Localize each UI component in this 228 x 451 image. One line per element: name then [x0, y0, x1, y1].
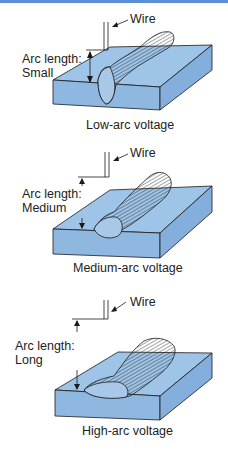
arc-length-label-2: Arc length:	[22, 187, 82, 201]
caption-2: Medium-arc voltage	[73, 261, 183, 275]
wire-label-3: Wire	[130, 295, 156, 309]
arc-length-label-3: Arc length:	[15, 339, 75, 353]
arc-length-value-2: Medium	[22, 201, 66, 215]
wire-label-1: Wire	[130, 12, 156, 26]
caption-1: Low-arc voltage	[86, 118, 174, 132]
panel-medium-arc	[53, 152, 212, 258]
caption-3: High-arc voltage	[82, 424, 173, 438]
arc-length-label-1: Arc length:	[22, 52, 82, 66]
arc-length-value-3: Long	[15, 353, 43, 367]
wire-label-2: Wire	[130, 146, 156, 160]
panel-high-arc	[55, 300, 212, 420]
arc-length-value-1: Small	[22, 66, 53, 80]
